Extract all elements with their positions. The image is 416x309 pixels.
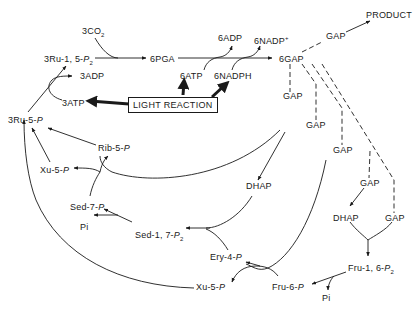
pi-right-label: Pi [322, 293, 330, 303]
pga-label: 6PGA [150, 54, 175, 64]
atp6-label: 6ATP [180, 71, 203, 81]
atp3-label: 3ATP [62, 98, 85, 108]
fru16p2-label: Fru-1, 6-P2 [348, 263, 394, 277]
nadph6-label: 6NADPH [214, 71, 252, 81]
gap-right-to-aldolase [368, 222, 392, 240]
dhap-right-to-aldolase [350, 222, 368, 240]
gap-product-arrow [346, 21, 370, 32]
rib5p-label: Rib-5-P [98, 143, 130, 153]
dhap-right-label: DHAP [333, 213, 359, 223]
product-label: PRODUCT [366, 10, 412, 20]
gap-split-dashed-3 [312, 64, 342, 145]
light-to-atp6-arrow [183, 82, 184, 95]
light-reaction-box: LIGHT REACTION [128, 97, 218, 113]
atp3-consumption [49, 76, 72, 100]
dhap-mid-label: DHAP [246, 181, 272, 191]
gap-to-dhap-right-arrow [350, 188, 364, 206]
ery4p-label: Ery-4-P [210, 252, 242, 262]
xu5p-bottom-label: Xu-5-P [196, 282, 225, 292]
gap-to-transketolase-curve [100, 130, 280, 178]
gap-a-label: GAP [283, 91, 303, 101]
gap-d-label: GAP [360, 178, 380, 188]
adp3-label: 3ADP [80, 71, 104, 81]
co2-label: 3CO2 [82, 26, 105, 40]
transketolase-to-rib5p [100, 156, 108, 172]
ru5p-to-rubp-arrow [28, 66, 66, 112]
gap-to-product-dashed [302, 42, 322, 52]
gap-c-label: GAP [333, 145, 353, 155]
adp6-label: 6ADP [218, 33, 242, 43]
co2-arrow [95, 38, 118, 58]
gap-product-label: GAP [326, 31, 346, 41]
nadp6-label: 6NADP+ [254, 33, 289, 46]
gap-e-label: GAP [385, 213, 405, 223]
gap-split-dashed-2 [302, 64, 316, 120]
sed17p2-label: Sed-1, 7-P2 [135, 230, 184, 244]
fru16p2-to-fru6p-arrow [312, 272, 346, 284]
gap-split-dashed-5 [369, 151, 370, 178]
light-to-atp3-arrow [90, 101, 129, 104]
gap-to-fru6p-transketolase [246, 160, 326, 269]
rib5p-to-ru5p-arrow [48, 128, 96, 145]
xu5p-to-ru5p-arrow [32, 128, 50, 162]
gap-b-label: GAP [306, 120, 326, 130]
fru6p-label: Fru-6-P [272, 282, 304, 292]
transketolase-to-xu5p-arrow [232, 266, 256, 282]
sed17p2-to-sed7p-arrow [104, 209, 132, 222]
dhap-to-aldolase [206, 196, 252, 228]
transketolase-to-ery4p-arrow [246, 262, 260, 266]
gap6-label: 6GAP [279, 54, 304, 64]
fru6p-to-transketolase [256, 266, 278, 276]
sed7p-to-transketolase [90, 172, 100, 196]
rubp-label: 3Ru-1, 5-P2 [44, 54, 93, 68]
pi-left-label: Pi [80, 222, 88, 232]
sed7p-label: Sed-7-P [70, 202, 104, 212]
xu5p-top-label: Xu-5-P [40, 165, 69, 175]
gap-split-dashed-4 [322, 64, 394, 213]
ery4p-to-aldolase [206, 229, 228, 250]
light-to-nadph6-arrow [212, 84, 226, 97]
transketolase-to-xu5p [74, 168, 100, 172]
ru5p-label: 3Ru-5-P [8, 115, 43, 125]
gap-to-dhap-arrow [258, 132, 285, 180]
